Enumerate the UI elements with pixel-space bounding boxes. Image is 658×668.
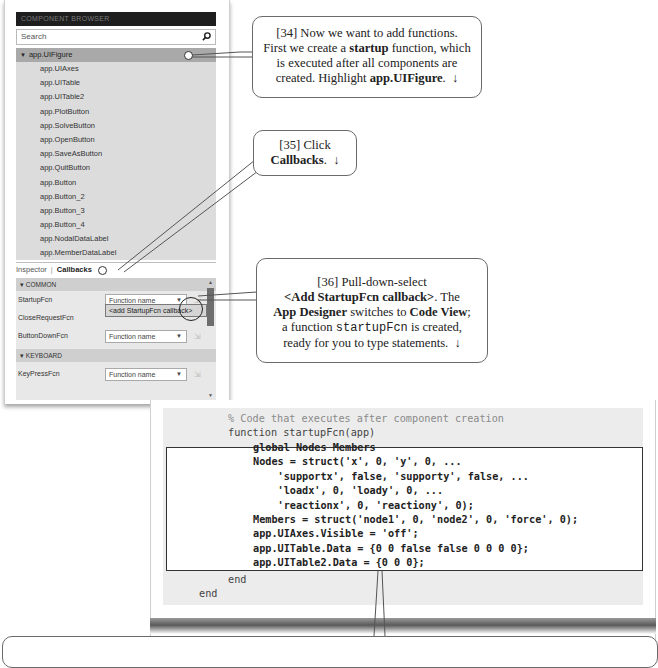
tab-callbacks[interactable]: Callbacks (57, 265, 92, 274)
callout-text: a function (282, 320, 336, 334)
keypressfcn-dropdown[interactable]: Function name ▼ (105, 368, 187, 381)
tree-item[interactable]: app.UITable (16, 76, 216, 90)
callout-text: First we create a (263, 41, 349, 55)
scrollbar-thumb[interactable] (207, 288, 214, 326)
code-line: app.UITable.Data = {0 0 false false 0 0 … (253, 542, 529, 556)
tree-item[interactable]: app.MemberDataLabel (16, 246, 216, 260)
scroll-up-icon[interactable]: ▲ (207, 279, 214, 285)
callout-text: switches to (347, 305, 410, 319)
callout-text: . (324, 153, 327, 167)
tree-item[interactable]: app.OpenButton (16, 133, 216, 147)
code-function-signature: function startupFcn(app) (228, 426, 375, 440)
callout-emphasis: Code View (410, 305, 468, 319)
tree-item[interactable]: app.SolveButton (16, 119, 216, 133)
code-line: app.UITable2.Data = {0 0 0}; (253, 556, 425, 570)
callout-emphasis: app.UIFigure (370, 71, 443, 85)
dropdown-value: Function name (109, 371, 155, 378)
chevron-down-icon[interactable]: ▼ (176, 331, 182, 342)
tree-item[interactable]: app.Button_3 (16, 204, 216, 218)
search-placeholder: Search (21, 32, 46, 41)
callbacks-panel: ▾ COMMON StartupFcn Function name ▼ ⇲ Cl… (16, 278, 216, 400)
goto-callback-icon[interactable]: ⇲ (192, 369, 203, 380)
callout-bottom (2, 636, 658, 668)
tree-item[interactable]: app.Button_4 (16, 218, 216, 232)
tree-item[interactable]: app.Button (16, 176, 216, 190)
callout-code: startupFcn (336, 321, 408, 335)
callout-text: function, which (389, 41, 471, 55)
tree-item[interactable]: app.PlotButton (16, 105, 216, 119)
component-search-input[interactable]: Search (16, 29, 216, 45)
callout-text: ; (467, 305, 471, 319)
tree-item[interactable]: app.QuitButton (16, 161, 216, 175)
callout-text: created. Highlight (276, 71, 370, 85)
code-line: Members = struct('node1', 0, 'node2', 0,… (253, 513, 578, 527)
section-title: KEYBOARD (26, 352, 62, 359)
expand-caret-icon[interactable]: ▼ (20, 52, 26, 58)
callout-text: . (443, 71, 446, 85)
search-icon (202, 32, 211, 41)
tree-item[interactable]: app.SaveAsButton (16, 147, 216, 161)
code-line: global Nodes Members (253, 441, 376, 455)
component-browser-title: COMPONENT BROWSER (16, 12, 216, 26)
step-number: [36] (317, 275, 338, 289)
code-line: app.UIAxes.Visible = 'off'; (253, 527, 419, 541)
callout-step-36: [36] Pull-down-select <Add StartupFcn ca… (256, 258, 488, 363)
code-line: 'loadx', 0, 'loady', 0, ... (253, 484, 443, 498)
callout-text: is executed after all components are (277, 56, 458, 70)
tab-separator: | (51, 265, 53, 274)
code-end-inner: end (228, 573, 246, 587)
code-line: 'reactionx', 0, 'reactiony', 0); (253, 499, 474, 513)
callback-label: CloseRequestFcn (18, 314, 74, 321)
callout-step-34: [34] Now we want to add functions. First… (252, 16, 482, 98)
dropdown-value: Function name (109, 333, 155, 340)
down-arrow-icon: ↓ (455, 336, 461, 350)
tree-item-uifigure[interactable]: ▼app.UIFigure (16, 48, 216, 62)
buttondownfcn-dropdown[interactable]: Function name ▼ (105, 330, 187, 343)
callout-emphasis: App Designer (273, 305, 347, 319)
scroll-down-icon[interactable]: ▼ (207, 392, 214, 398)
callout-text: Pull-down-select (338, 275, 427, 289)
callout-emphasis: startup (349, 41, 388, 55)
inspector-tabs: Inspector|Callbacks (16, 262, 216, 277)
callout-text: Now we want to add functions. (297, 26, 458, 40)
callback-label: KeyPressFcn (18, 370, 60, 377)
section-title: COMMON (26, 281, 56, 288)
tree-item[interactable]: app.NodalDataLabel (16, 232, 216, 246)
code-line: Nodes = struct('x', 0, 'y', 0, ... (253, 455, 462, 469)
highlight-circle (179, 297, 203, 321)
callout-text: . The (434, 290, 460, 304)
down-arrow-icon: ↓ (333, 153, 339, 167)
tab-inspector[interactable]: Inspector (16, 265, 47, 274)
callout-text: is created, (408, 320, 462, 334)
goto-callback-icon[interactable]: ⇲ (192, 331, 203, 342)
callout-emphasis: <Add StartupFcn callback> (284, 290, 434, 304)
callout-anchor-marker (98, 266, 107, 275)
callout-text: Click (300, 138, 330, 152)
callout-step-35: [35] Click Callbacks. ↓ (253, 130, 357, 176)
section-keyboard[interactable]: ▾ KEYBOARD (16, 349, 216, 362)
code-line: 'supportx', false, 'supporty', false, ..… (253, 470, 529, 484)
callback-row-buttondownfcn: ButtonDownFcn Function name ▼ ⇲ (16, 327, 216, 345)
step-number: [35] (279, 138, 300, 152)
tree-item[interactable]: app.Button_2 (16, 190, 216, 204)
callback-label: ButtonDownFcn (18, 332, 68, 339)
down-arrow-icon: ↓ (452, 71, 458, 85)
window-shadow (150, 618, 656, 634)
tree-item[interactable]: app.UIAxes (16, 62, 216, 76)
callout-text: ready for you to type statements. (283, 336, 448, 350)
callout-emphasis: Callbacks (271, 153, 324, 167)
callout-anchor-marker (184, 51, 193, 60)
code-end-outer: end (199, 587, 217, 601)
component-tree: ▼app.UIFigure app.UIAxes app.UITable app… (16, 48, 216, 260)
callbacks-scrollbar[interactable]: ▲ ▼ (207, 278, 214, 400)
tree-item[interactable]: app.UITable2 (16, 90, 216, 104)
chevron-down-icon[interactable]: ▼ (176, 369, 182, 380)
code-comment: % Code that executes after component cre… (228, 412, 504, 426)
callback-row-keypressfcn: KeyPressFcn Function name ▼ ⇲ (16, 365, 216, 383)
dropdown-value: Function name (109, 297, 155, 304)
section-common[interactable]: ▾ COMMON (16, 278, 216, 291)
step-number: [34] (276, 26, 297, 40)
callback-label: StartupFcn (18, 296, 52, 303)
tree-root-label: app.UIFigure (29, 50, 72, 59)
